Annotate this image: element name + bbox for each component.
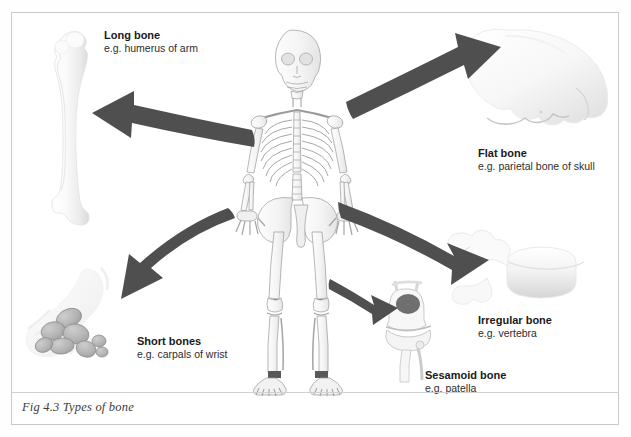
figure-types-of-bone: Long bone e.g. humerus of arm Flat bone …: [0, 0, 631, 437]
label-flat-bone-example: e.g. parietal bone of skull: [478, 160, 595, 173]
label-irregular-bone-title: Irregular bone: [478, 313, 552, 327]
figure-caption: Fig 4.3 Types of bone: [22, 400, 134, 415]
label-short-bones-title: Short bones: [137, 334, 227, 348]
label-flat-bone: Flat bone e.g. parietal bone of skull: [478, 146, 595, 174]
label-flat-bone-title: Flat bone: [478, 146, 595, 160]
label-irregular-bone-example: e.g. vertebra: [478, 327, 552, 340]
label-sesamoid-bone-example: e.g. patella: [425, 382, 506, 395]
caption-divider: [11, 392, 619, 393]
label-short-bones-example: e.g. carpals of wrist: [137, 348, 227, 361]
label-sesamoid-bone-title: Sesamoid bone: [425, 368, 506, 382]
label-long-bone-example: e.g. humerus of arm: [104, 42, 198, 55]
label-irregular-bone: Irregular bone e.g. vertebra: [478, 313, 552, 341]
label-long-bone: Long bone e.g. humerus of arm: [104, 28, 198, 56]
label-long-bone-title: Long bone: [104, 28, 198, 42]
label-short-bones: Short bones e.g. carpals of wrist: [137, 334, 227, 362]
figure-border: [11, 12, 619, 425]
